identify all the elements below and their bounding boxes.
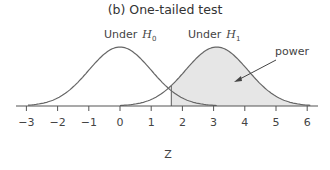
x-axis-ticks: −3−2−10123456 (18, 106, 310, 129)
chart-plot: −3−2−10123456 UnderH0 UnderH1 power Z (0, 0, 330, 170)
h1-label: UnderH1 (188, 28, 240, 43)
x-axis-label: Z (164, 148, 172, 161)
x-tick-label: −1 (81, 116, 97, 129)
x-tick-label: 3 (210, 116, 217, 129)
x-tick-label: −2 (49, 116, 65, 129)
x-tick-label: −3 (18, 116, 34, 129)
x-tick-label: 2 (179, 116, 186, 129)
power-label: power (275, 45, 309, 58)
x-tick-label: 5 (273, 116, 280, 129)
x-tick-label: 4 (241, 116, 248, 129)
x-tick-label: 6 (304, 116, 311, 129)
h0-label: UnderH0 (104, 28, 156, 43)
x-tick-label: 1 (148, 116, 155, 129)
x-tick-label: 0 (117, 116, 124, 129)
